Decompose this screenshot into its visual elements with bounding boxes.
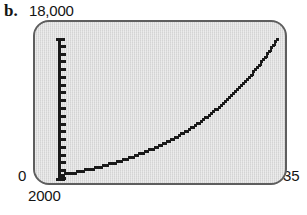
y-axis xyxy=(56,38,66,181)
plot-graphics xyxy=(35,22,287,185)
x-axis-min-label: 2000 xyxy=(28,188,61,204)
part-label: b. xyxy=(4,2,18,20)
figure-panel: b. 18,000 0 2000 35 xyxy=(0,0,307,215)
y-axis-min-label: 0 xyxy=(18,168,26,184)
y-axis-max-label: 18,000 xyxy=(29,3,74,19)
calculator-screen xyxy=(33,20,287,185)
exponential-curve xyxy=(58,38,279,177)
x-axis-ticks xyxy=(89,183,284,185)
